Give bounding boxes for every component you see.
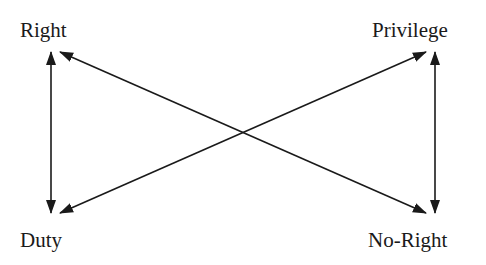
node-right: Right [20,20,67,41]
node-duty: Duty [20,230,62,251]
node-no-right: No-Right [368,230,447,251]
node-privilege: Privilege [372,20,448,41]
